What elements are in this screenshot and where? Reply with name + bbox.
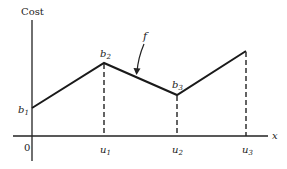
piecewise-linear-cost-diagram: Cost x 0 b1 b2 b3 f u1 u2 u3: [0, 0, 287, 169]
origin-label: 0: [24, 142, 30, 153]
label-b1: b1: [18, 104, 29, 117]
arrowhead-icon: [134, 68, 141, 75]
function-pointer-arrow-icon: [137, 44, 144, 72]
function-label-f: f: [142, 30, 149, 43]
label-b2: b2: [100, 48, 111, 61]
tick-u2: u2: [172, 144, 183, 157]
tick-u3: u3: [242, 144, 253, 157]
label-b3: b3: [172, 79, 183, 92]
y-axis-label: Cost: [21, 6, 44, 17]
x-axis-label: x: [272, 130, 278, 141]
tick-u1: u1: [100, 144, 111, 157]
